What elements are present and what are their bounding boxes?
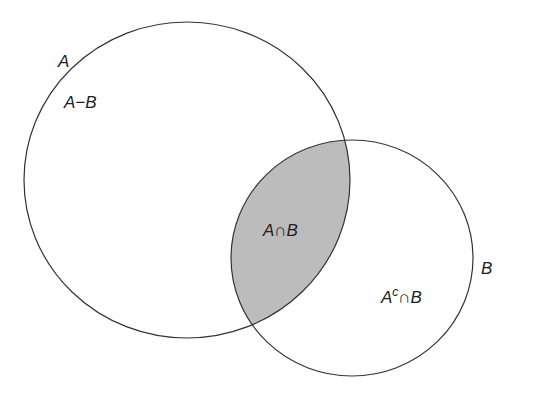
venn-svg: A A−B A∩B B Ac∩B	[0, 0, 554, 394]
set-b-label: B	[481, 259, 492, 278]
ac-rest: ∩B	[398, 288, 422, 307]
set-a-label: A	[57, 52, 69, 71]
intersection-region	[231, 140, 473, 376]
ac-intersect-b-label: Ac∩B	[380, 285, 422, 307]
venn-diagram: A A−B A∩B B Ac∩B	[0, 0, 554, 394]
ac-base: A	[380, 288, 392, 307]
a-minus-b-label: A−B	[63, 93, 97, 112]
a-intersect-b-label: A∩B	[262, 221, 298, 240]
